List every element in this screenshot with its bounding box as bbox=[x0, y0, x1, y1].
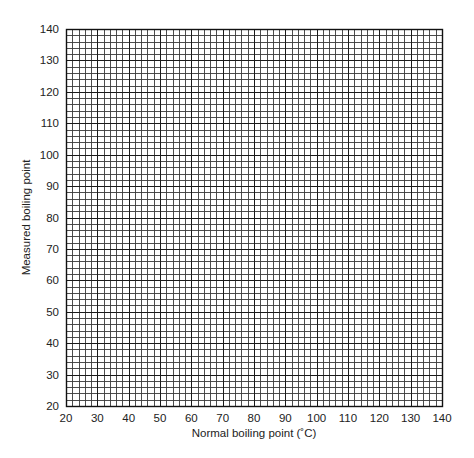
x-axis-tick-labels: 2030405060708090100110120130140 bbox=[60, 412, 452, 424]
y-tick-label: 20 bbox=[46, 400, 59, 412]
x-tick-label: 80 bbox=[248, 412, 261, 424]
x-tick-label: 100 bbox=[307, 412, 326, 424]
y-tick-label: 110 bbox=[41, 117, 59, 129]
graph-paper-chart: 2030405060708090100110120130140 20304050… bbox=[0, 0, 474, 458]
x-tick-label: 30 bbox=[91, 412, 104, 424]
y-axis-tick-labels: 2030405060708090100110120130140 bbox=[40, 23, 59, 412]
x-tick-label: 120 bbox=[370, 412, 389, 424]
x-tick-label: 60 bbox=[185, 412, 198, 424]
x-axis-label: Normal boiling point (˚C) bbox=[192, 427, 317, 439]
y-axis-label: Measured boiling point bbox=[20, 159, 32, 276]
y-tick-label: 30 bbox=[46, 369, 59, 381]
x-tick-label: 70 bbox=[216, 412, 229, 424]
y-tick-label: 80 bbox=[46, 212, 59, 224]
y-tick-label: 90 bbox=[46, 180, 59, 192]
x-tick-label: 20 bbox=[60, 412, 73, 424]
x-tick-label: 140 bbox=[432, 412, 451, 424]
y-tick-label: 120 bbox=[40, 86, 59, 98]
y-tick-label: 130 bbox=[40, 54, 59, 66]
y-tick-label: 50 bbox=[46, 306, 59, 318]
y-tick-label: 70 bbox=[46, 243, 59, 255]
x-tick-label: 110 bbox=[339, 412, 357, 424]
y-tick-label: 60 bbox=[46, 274, 59, 286]
y-tick-label: 140 bbox=[40, 23, 59, 35]
y-tick-label: 100 bbox=[40, 149, 59, 161]
x-tick-label: 40 bbox=[122, 412, 135, 424]
x-tick-label: 90 bbox=[279, 412, 292, 424]
x-tick-label: 50 bbox=[154, 412, 167, 424]
y-tick-label: 40 bbox=[46, 337, 59, 349]
x-tick-label: 130 bbox=[401, 412, 420, 424]
